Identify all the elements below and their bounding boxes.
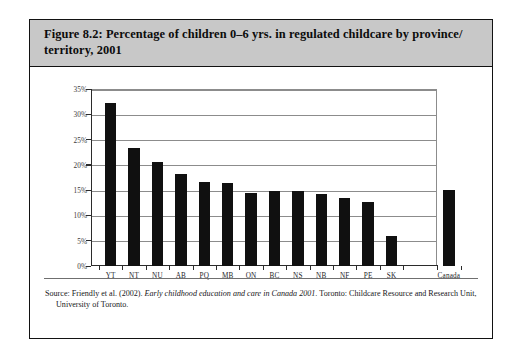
y-tick-label: 15%	[74, 186, 87, 195]
bar-ab	[175, 174, 187, 266]
x-tick-mark	[380, 266, 381, 270]
x-tick-mark	[216, 266, 217, 270]
x-tick-mark	[122, 266, 123, 270]
x-tick-mark	[263, 266, 264, 270]
x-tick-mark	[310, 266, 311, 270]
bar-nb	[316, 194, 328, 266]
source-note: Source: Friendly et al. (2002). Early ch…	[45, 288, 478, 311]
bar-nu	[152, 162, 164, 266]
bar-canada	[443, 190, 455, 266]
x-tick-mark	[356, 266, 357, 270]
figure-title-band: Figure 8.2: Percentage of children 0–6 y…	[30, 20, 492, 67]
x-tick-mark	[239, 266, 240, 270]
x-tick-mark	[333, 266, 334, 270]
bar-nt	[128, 148, 140, 266]
bars-layer	[91, 89, 437, 266]
x-tick-mark	[99, 266, 100, 270]
page-title: Figure 8.2: Percentage of children 0–6 y…	[44, 27, 480, 58]
source-divider	[44, 278, 478, 279]
bar-mb	[222, 183, 234, 266]
bar-nf	[339, 198, 351, 266]
source-title: Early childhood education and care in Ca…	[145, 289, 316, 298]
bar-bc	[269, 191, 281, 266]
x-tick-mark	[403, 266, 404, 270]
source-prefix: Source: Friendly et al. (2002).	[45, 289, 145, 298]
y-tick-label: 30%	[74, 110, 87, 119]
x-tick-mark	[437, 266, 438, 270]
bar-ns	[292, 191, 304, 266]
x-tick-mark	[193, 266, 194, 270]
figure-container: Figure 8.2: Percentage of children 0–6 y…	[29, 19, 493, 339]
bar-sk	[386, 236, 398, 266]
y-tick-label: 20%	[74, 160, 87, 169]
bar-yt	[105, 103, 117, 266]
chart-area: Percent of children 0 to 6 yrs 0%5%10%15…	[30, 67, 492, 297]
bar-pe	[362, 202, 374, 266]
x-tick-mark	[169, 266, 170, 270]
x-tick-mark	[146, 266, 147, 270]
x-tick-mark	[286, 266, 287, 270]
y-tick-label: 25%	[74, 135, 87, 144]
y-tick-label: 35%	[74, 85, 87, 94]
bar-pq	[199, 182, 211, 266]
y-tick-label: 10%	[74, 211, 87, 220]
x-tick-mark	[461, 266, 462, 270]
bar-on	[245, 193, 257, 266]
